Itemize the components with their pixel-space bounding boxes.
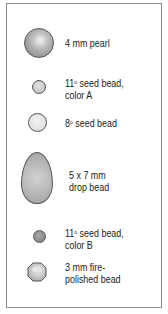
legend-label: 5 x 7 mmdrop bead xyxy=(69,169,109,193)
bead-legend: 4 mm pearl 11o seed bead,color A 8o seed… xyxy=(6,3,162,308)
seed-bead-icon xyxy=(28,113,47,132)
seed-bead-icon xyxy=(33,230,46,243)
drop-bead-icon xyxy=(21,152,53,204)
legend-label: 11o seed bead,color A xyxy=(65,77,124,101)
legend-label: 4 mm pearl xyxy=(65,37,110,49)
legend-label: 11o seed bead,color B xyxy=(65,227,124,251)
seed-bead-icon xyxy=(32,80,46,94)
legend-label: 3 mm fire-polished bead xyxy=(65,261,121,285)
pearl-icon xyxy=(24,28,54,58)
legend-label: 8o seed bead xyxy=(65,117,117,129)
fire-polished-bead-icon xyxy=(27,262,47,282)
